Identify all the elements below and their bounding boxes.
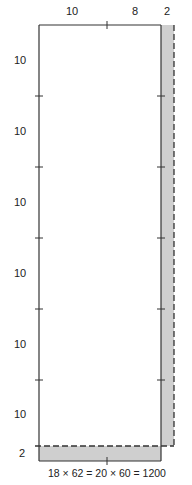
left-label: 10 [14, 54, 26, 66]
right-shaded-strip [161, 25, 174, 446]
left-label: 10 [14, 267, 26, 279]
bottom-shaded-strip [39, 446, 161, 461]
equation: 18 × 62 = 20 × 60 = 1200 [48, 467, 166, 479]
left-label-2: 2 [19, 447, 25, 459]
left-label: 10 [14, 408, 26, 420]
left-label: 10 [14, 125, 26, 137]
left-label: 10 [14, 196, 26, 208]
left-label: 10 [14, 338, 26, 350]
rectangle-diagram [0, 0, 192, 485]
top-label-2: 2 [164, 5, 170, 17]
top-label-8: 8 [132, 5, 138, 17]
top-label-10: 10 [66, 5, 78, 17]
